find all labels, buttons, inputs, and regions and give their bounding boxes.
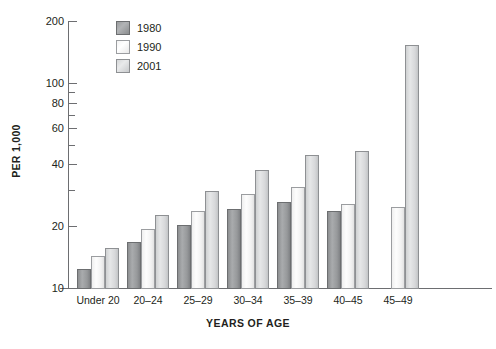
y-tick-label: 40 bbox=[24, 158, 64, 170]
x-tick-label: 35–39 bbox=[283, 294, 312, 306]
bar-group bbox=[377, 21, 419, 289]
bar bbox=[277, 202, 291, 289]
legend-swatch-icon bbox=[116, 40, 130, 54]
bar bbox=[227, 209, 241, 289]
bar-chart: PER 1,000 2001008060402010 Under 2020–24… bbox=[0, 0, 496, 349]
y-tick-label: 10 bbox=[24, 282, 64, 294]
bar bbox=[155, 215, 169, 289]
bar bbox=[77, 269, 91, 289]
y-tick-label: 60 bbox=[24, 122, 64, 134]
bar bbox=[327, 211, 341, 289]
bar bbox=[391, 207, 405, 289]
y-tick-label: 100 bbox=[24, 77, 64, 89]
legend-swatch-icon bbox=[116, 21, 130, 35]
bar-group bbox=[277, 21, 319, 289]
bar bbox=[291, 187, 305, 289]
legend-label: 1980 bbox=[137, 22, 161, 34]
x-tick-label: 45–49 bbox=[383, 294, 412, 306]
bar bbox=[241, 194, 255, 289]
x-tick-label: Under 20 bbox=[76, 294, 119, 306]
bar bbox=[141, 229, 155, 289]
bar-group bbox=[327, 21, 369, 289]
legend-swatch-icon bbox=[116, 59, 130, 73]
bar bbox=[405, 45, 419, 289]
legend-label: 1990 bbox=[137, 41, 161, 53]
x-tick-label: 20–24 bbox=[133, 294, 162, 306]
x-axis-title: YEARS OF AGE bbox=[0, 317, 496, 329]
x-tick-label: 30–34 bbox=[233, 294, 262, 306]
bar bbox=[105, 248, 119, 289]
y-tick-label: 80 bbox=[24, 97, 64, 109]
bar bbox=[205, 191, 219, 289]
x-tick-label: 25–29 bbox=[183, 294, 212, 306]
bar bbox=[127, 242, 141, 289]
bar bbox=[191, 211, 205, 289]
legend-label: 2001 bbox=[137, 60, 161, 72]
legend-item: 1990 bbox=[116, 38, 161, 55]
bar-group bbox=[177, 21, 219, 289]
y-axis-title: PER 1,000 bbox=[10, 101, 22, 201]
bar bbox=[305, 155, 319, 289]
bar bbox=[255, 170, 269, 289]
y-tick-label: 200 bbox=[24, 15, 64, 27]
y-tick-label: 20 bbox=[24, 220, 64, 232]
legend-item: 2001 bbox=[116, 57, 161, 74]
bar bbox=[177, 225, 191, 289]
chart-legend: 198019902001 bbox=[116, 19, 161, 76]
x-tick-label: 40–45 bbox=[333, 294, 362, 306]
bar bbox=[355, 151, 369, 289]
bar-group bbox=[227, 21, 269, 289]
bar bbox=[91, 256, 105, 289]
bar-group bbox=[77, 21, 119, 289]
legend-item: 1980 bbox=[116, 19, 161, 36]
bar bbox=[341, 204, 355, 289]
